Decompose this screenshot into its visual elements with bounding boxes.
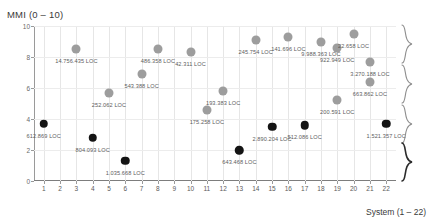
data-point[interactable]: [382, 119, 391, 128]
data-point-label: 512.086 LOC: [287, 134, 321, 140]
x-tick-label: 18: [317, 185, 324, 192]
gridline-v: [44, 26, 45, 181]
data-point[interactable]: [121, 157, 130, 166]
x-tick-label: 16: [285, 185, 292, 192]
y-tick-label: 2: [26, 147, 30, 154]
gridline-h: [34, 88, 396, 89]
x-tick-label: 19: [334, 185, 341, 192]
data-point-label: 543.388 LOC: [124, 83, 158, 89]
x-tick-mark: [337, 181, 338, 184]
data-point[interactable]: [88, 133, 97, 142]
gridline-v: [386, 26, 387, 181]
data-point[interactable]: [137, 70, 146, 79]
data-point[interactable]: [316, 37, 325, 46]
data-point-label: 922.949 LOC: [320, 57, 354, 63]
data-point[interactable]: [365, 57, 374, 66]
y-tick-mark: [31, 181, 34, 182]
data-point-label: 22.658 LOC: [338, 43, 369, 49]
x-axis-line: [34, 180, 396, 181]
y-tick-label: 8: [26, 54, 30, 61]
data-point-label: 486.358 LOC: [141, 58, 175, 64]
data-point[interactable]: [365, 77, 374, 86]
x-tick-label: 6: [124, 185, 128, 192]
x-tick-label: 12: [220, 185, 227, 192]
x-tick-label: 3: [75, 185, 79, 192]
x-tick-label: 8: [156, 185, 160, 192]
data-point[interactable]: [300, 121, 309, 130]
x-tick-mark: [125, 181, 126, 184]
data-point[interactable]: [284, 32, 293, 41]
x-tick-label: 9: [172, 185, 176, 192]
x-tick-label: 20: [350, 185, 357, 192]
x-tick-mark: [239, 181, 240, 184]
data-point[interactable]: [72, 45, 81, 54]
x-tick-mark: [370, 181, 371, 184]
data-point-label: 42.311 LOC: [175, 61, 206, 67]
plot-area: 0246810 12345678910111213141516171819202…: [34, 26, 396, 181]
y-axis-line: [34, 26, 35, 181]
x-tick-mark: [223, 181, 224, 184]
data-point-label: 643.468 LOC: [222, 159, 256, 165]
x-tick-label: 4: [91, 185, 95, 192]
data-point[interactable]: [153, 45, 162, 54]
x-tick-mark: [305, 181, 306, 184]
gridline-v: [142, 26, 143, 181]
x-tick-mark: [174, 181, 175, 184]
x-tick-label: 14: [252, 185, 259, 192]
data-point[interactable]: [349, 29, 358, 38]
x-tick-label: 15: [268, 185, 275, 192]
scatter-chart: MMI (0 – 10) 0246810 1234567891011121314…: [0, 0, 434, 219]
data-point-label: 175.258 LOC: [190, 119, 224, 125]
x-tick-mark: [256, 181, 257, 184]
data-point[interactable]: [186, 48, 195, 57]
y-tick-mark: [31, 57, 34, 58]
gridline-v: [60, 26, 61, 181]
y-tick-label: 10: [23, 23, 30, 30]
y-tick-mark: [31, 26, 34, 27]
gridline-v: [354, 26, 355, 181]
gridline-v: [370, 26, 371, 181]
x-tick-mark: [191, 181, 192, 184]
y-tick-mark: [31, 119, 34, 120]
x-tick-mark: [158, 181, 159, 184]
data-point-label: 252.062 LOC: [92, 102, 126, 108]
data-point[interactable]: [251, 35, 260, 44]
data-point-label: 14.756.435 LOC: [55, 58, 97, 64]
data-point-label: 612.869 LOC: [27, 133, 61, 139]
data-point[interactable]: [235, 146, 244, 155]
x-tick-label: 5: [107, 185, 111, 192]
x-tick-label: 2: [58, 185, 62, 192]
y-tick-mark: [31, 88, 34, 89]
data-point[interactable]: [105, 88, 114, 97]
data-point-label: 663.862 LOC: [353, 91, 387, 97]
data-point[interactable]: [333, 96, 342, 105]
x-tick-mark: [76, 181, 77, 184]
brace-lower-middle: [400, 104, 416, 144]
y-tick-label: 6: [26, 85, 30, 92]
data-point[interactable]: [202, 105, 211, 114]
data-point-label: 804.093 LOC: [75, 147, 109, 153]
x-tick-mark: [288, 181, 289, 184]
x-tick-label: 13: [236, 185, 243, 192]
data-point[interactable]: [219, 87, 228, 96]
x-tick-mark: [93, 181, 94, 184]
x-tick-mark: [109, 181, 110, 184]
x-tick-mark: [207, 181, 208, 184]
brace-top: [400, 24, 416, 64]
brace-bottom: [400, 142, 416, 182]
x-tick-label: 21: [366, 185, 373, 192]
x-tick-label: 10: [187, 185, 194, 192]
data-point[interactable]: [268, 123, 277, 132]
data-point-label: 200.591 LOC: [320, 109, 354, 115]
x-tick-label: 1: [42, 185, 46, 192]
data-point[interactable]: [40, 119, 49, 128]
x-tick-mark: [354, 181, 355, 184]
x-tick-mark: [142, 181, 143, 184]
gridline-h: [34, 26, 396, 27]
x-tick-mark: [272, 181, 273, 184]
data-point-label: 3.270.188 LOC: [350, 71, 389, 77]
y-axis-title: MMI (0 – 10): [7, 9, 63, 20]
data-point-label: 245.754 LOC: [239, 49, 273, 55]
x-tick-mark: [44, 181, 45, 184]
right-side-braces: [400, 24, 428, 182]
